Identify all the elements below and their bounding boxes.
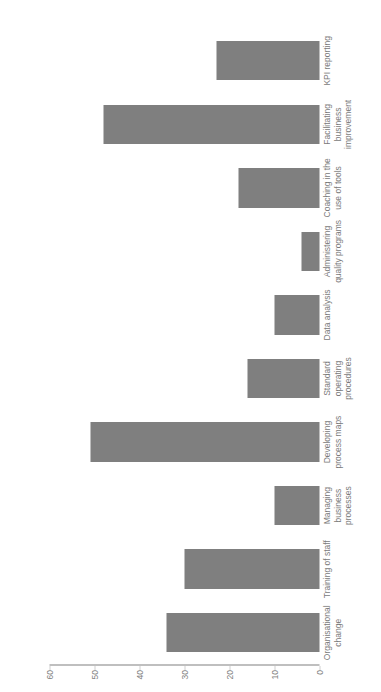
- bar-slot: [49, 29, 319, 93]
- category-label: Training of staff: [321, 537, 332, 601]
- bar[interactable]: [301, 232, 319, 271]
- bar-chart: 0102030405060 Organisational changeTrain…: [0, 0, 381, 692]
- bar-slot: [49, 537, 319, 601]
- bar[interactable]: [247, 359, 319, 398]
- value-axis-tick-label: 20: [225, 670, 234, 690]
- bar[interactable]: [274, 295, 319, 334]
- category-label: Standard operating procedures: [321, 347, 353, 411]
- value-axis-tick-label: 30: [180, 670, 189, 690]
- bar[interactable]: [274, 486, 319, 525]
- bar[interactable]: [216, 41, 320, 80]
- value-axis-tick-label: 0: [315, 670, 324, 690]
- category-label: Data analysis: [321, 283, 332, 347]
- value-axis-tick-label: 10: [270, 670, 279, 690]
- category-label: Administering quality programs: [321, 220, 342, 284]
- category-label: Coaching in the use of tools: [321, 156, 342, 220]
- bar[interactable]: [238, 168, 319, 207]
- bar-slot: [49, 347, 319, 411]
- bar[interactable]: [103, 105, 319, 144]
- bar-slot: [49, 220, 319, 284]
- value-axis-tick-label: 50: [90, 670, 99, 690]
- bar-slot: [49, 601, 319, 665]
- category-label: KPI reporting: [321, 29, 332, 93]
- bar[interactable]: [166, 613, 319, 652]
- bar[interactable]: [184, 550, 319, 589]
- value-axis-tick-label: 60: [45, 670, 54, 690]
- bar-slot: [49, 410, 319, 474]
- rotated-chart-wrapper: 0102030405060 Organisational changeTrain…: [0, 0, 381, 692]
- category-axis-labels: Organisational changeTraining of staffMa…: [321, 30, 379, 665]
- value-axis-tick-label: 40: [135, 670, 144, 690]
- plot-area: 0102030405060: [49, 29, 319, 666]
- bar-slot: [49, 93, 319, 157]
- bar[interactable]: [90, 422, 320, 461]
- category-label: Developing process maps: [321, 410, 342, 474]
- category-label: Managing business processes: [321, 474, 353, 538]
- bar-slot: [49, 474, 319, 538]
- bar-series: [49, 29, 319, 665]
- bar-slot: [49, 156, 319, 220]
- category-label: Facilitating business improvement: [321, 93, 353, 157]
- category-label: Organisational change: [321, 601, 342, 665]
- bar-slot: [49, 283, 319, 347]
